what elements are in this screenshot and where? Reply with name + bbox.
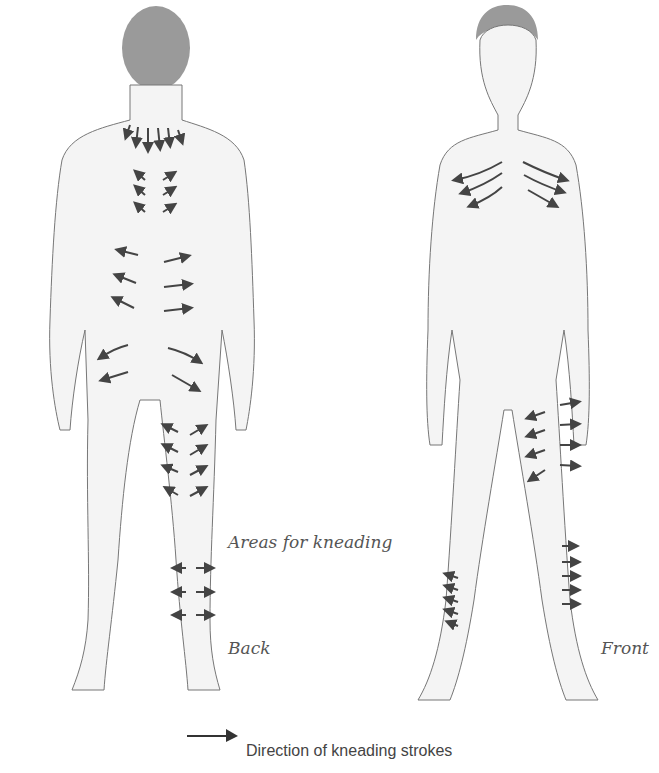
legend-text: Direction of kneading strokes — [246, 742, 452, 760]
arrow-right-icon — [187, 729, 238, 742]
back-figure — [50, 6, 255, 690]
front-figure — [418, 5, 598, 700]
back-label: Back — [228, 638, 270, 658]
body-illustration — [0, 0, 659, 773]
kneading-diagram: Areas for kneading Back Front Direction … — [0, 0, 659, 773]
areas-label: Areas for kneading — [228, 532, 392, 552]
front-label: Front — [601, 638, 649, 658]
